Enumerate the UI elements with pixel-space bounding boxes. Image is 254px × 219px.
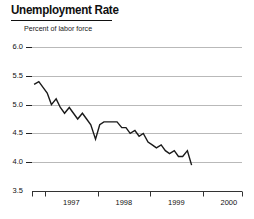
- data-line: [34, 82, 192, 166]
- plot-area: [0, 0, 254, 219]
- x-axis-tick-label: 1997: [51, 198, 91, 207]
- y-axis-tick-label: 3.5: [1, 186, 23, 195]
- y-axis-tick-label: 5.0: [1, 100, 23, 109]
- x-axis-ticks-group: [33, 192, 243, 197]
- series-group: [34, 82, 192, 166]
- y-axis-tick-label: 4.5: [1, 128, 23, 137]
- x-axis-tick-label: 1999: [156, 198, 196, 207]
- y-axis-tick-label: 5.5: [1, 71, 23, 80]
- y-axis-tick-label: 6.0: [1, 42, 23, 51]
- y-axis-tick-label: 4.0: [1, 157, 23, 166]
- x-axis-tick-label: 1998: [104, 198, 144, 207]
- x-axis-tick-label: 2000: [209, 198, 249, 207]
- unemployment-rate-chart: Unemployment Rate Percent of labor force…: [0, 0, 254, 219]
- gridlines-group: [26, 48, 242, 192]
